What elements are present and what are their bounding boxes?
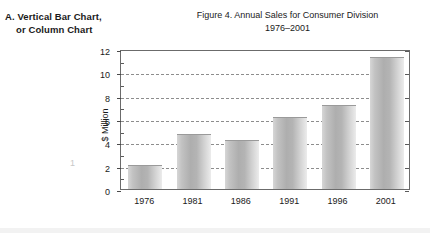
x-axis-tick-label: 1996: [327, 196, 347, 206]
x-axis-tick-label: 2001: [376, 196, 396, 206]
x-axis-tick-label: 1976: [134, 196, 154, 206]
bar: [128, 165, 162, 189]
y-axis-tick-label: 12: [100, 47, 110, 57]
bars-layer: [121, 51, 409, 189]
x-axis-tick-label: 1986: [231, 196, 251, 206]
bar: [370, 57, 404, 189]
y-axis-tick-label: 4: [105, 140, 110, 150]
y-axis-tick-label: 0: [105, 187, 110, 197]
y-axis-tick-label: 10: [100, 70, 110, 80]
y-axis-tick-label: 2: [105, 164, 110, 174]
bar: [177, 134, 211, 189]
bar: [322, 105, 356, 189]
y-axis-tick: 0: [117, 191, 121, 192]
scan-edge: [0, 228, 430, 233]
y-axis-tick-label: 8: [105, 94, 110, 104]
plot-frame: 024681012: [120, 50, 410, 190]
x-axis-tick-label: 1991: [279, 196, 299, 206]
bar: [225, 140, 259, 189]
bar: [273, 117, 307, 189]
bar-chart: $ Million 024681012 19761981198619911996…: [0, 0, 430, 233]
y-axis-tick-label: 6: [105, 117, 110, 127]
y-axis-tick-right: [405, 191, 409, 192]
x-axis-tick-label: 1981: [182, 196, 202, 206]
